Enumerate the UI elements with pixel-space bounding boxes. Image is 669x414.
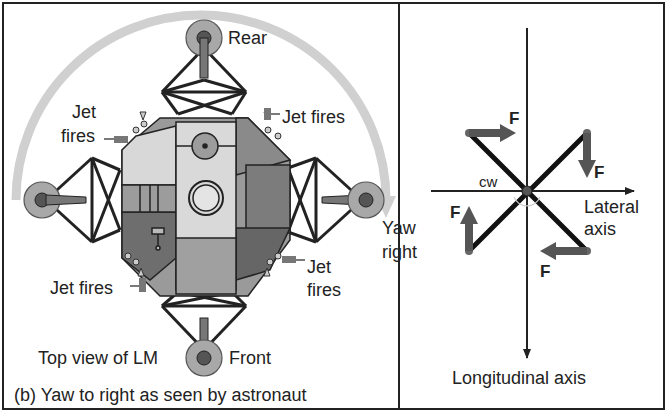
front-label: Front: [229, 348, 271, 368]
figure-caption: (b) Yaw to right as seen by astronaut: [14, 385, 307, 405]
top-view-label: Top view of LM: [38, 348, 158, 368]
force-label-bottom-left: F: [450, 203, 460, 222]
figure-frame: Rear Front Top view of LM Jet fires Jet …: [0, 0, 669, 414]
lateral-axis-label-line1: Lateral: [584, 197, 639, 217]
yaw-label-line2: right: [382, 242, 417, 262]
lateral-axis-label-line2: axis: [584, 219, 616, 239]
jet-top-left-label-line1: Jet: [72, 102, 96, 122]
jet-bottom-right-label-line2: fires: [307, 280, 341, 300]
rear-label: Rear: [228, 28, 267, 48]
cw-label: cw: [479, 173, 498, 190]
longitudinal-axis-label: Longitudinal axis: [452, 368, 586, 388]
force-label-top-right: F: [594, 163, 604, 182]
force-label-top-left: F: [509, 109, 519, 128]
rear-footpad: [186, 20, 222, 78]
lunar-module-body: [122, 118, 290, 296]
jet-top-right-label: Jet fires: [282, 107, 345, 127]
left-footpad: [24, 182, 86, 218]
force-label-bottom-right: F: [540, 262, 550, 281]
jet-bottom-right-label-line1: Jet: [307, 257, 331, 277]
right-footpad: [322, 182, 384, 218]
jet-bottom-left-label: Jet fires: [50, 278, 113, 298]
yaw-label-line1: Yaw: [382, 218, 417, 238]
diagram-canvas: Rear Front Top view of LM Jet fires Jet …: [0, 0, 669, 414]
jet-top-left-label-line2: fires: [61, 126, 95, 146]
front-footpad: [186, 318, 222, 376]
